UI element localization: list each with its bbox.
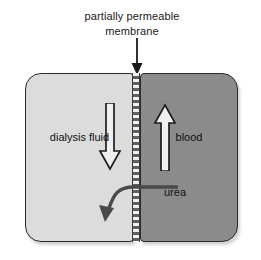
membrane-caption: partially permeable membrane xyxy=(52,9,212,39)
blood-label: blood xyxy=(141,131,237,143)
dialysis-fluid-label: dialysis fluid xyxy=(30,131,129,143)
caption-line-2: membrane xyxy=(52,24,212,39)
urea-label: urea xyxy=(164,186,186,198)
caption-line-1: partially permeable xyxy=(52,9,212,24)
dialysis-membrane-diagram: partially permeable membrane dialysis fl… xyxy=(0,0,261,260)
caption-pointer-arrow-icon xyxy=(122,38,152,76)
